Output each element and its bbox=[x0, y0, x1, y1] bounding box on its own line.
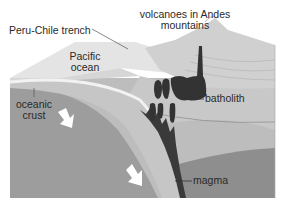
batholith-drip-1 bbox=[150, 103, 157, 121]
batholith-drip-2 bbox=[158, 103, 164, 119]
label-ocean-line2: ocean bbox=[60, 62, 110, 73]
batholith-blob-1 bbox=[154, 80, 162, 99]
batholith-drip-3 bbox=[170, 103, 176, 123]
subduction-diagram: Peru-Chile trench volcanoes in Andes mou… bbox=[0, 0, 290, 205]
label-batholith: batholith bbox=[205, 93, 245, 104]
label-volcanoes-line2: mountains bbox=[120, 20, 250, 31]
label-trench: Peru-Chile trench bbox=[9, 25, 91, 36]
label-crust-line2: crust bbox=[10, 110, 58, 121]
label-magma: magma bbox=[193, 175, 228, 186]
